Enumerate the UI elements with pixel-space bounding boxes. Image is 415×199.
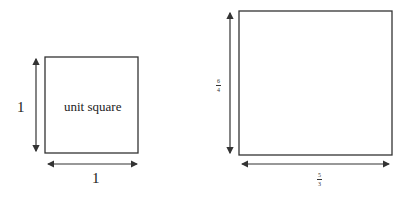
unit-width-label: 1 <box>92 170 100 187</box>
fraction-denominator: 4 <box>217 87 220 93</box>
fraction-numerator: 6 <box>217 78 220 84</box>
fraction-bar <box>216 85 221 86</box>
fraction-bar <box>317 179 322 180</box>
unit-height-label: 1 <box>17 99 25 116</box>
scaled-width-fraction: 5 3 <box>317 172 322 187</box>
fraction-denominator: 3 <box>318 181 321 187</box>
scaled-height-fraction: 6 4 <box>216 78 221 93</box>
diagram-canvas <box>0 0 415 199</box>
fraction-numerator: 5 <box>318 172 321 178</box>
scaled-rectangle <box>239 11 392 155</box>
unit-square-label: unit square <box>64 99 121 115</box>
